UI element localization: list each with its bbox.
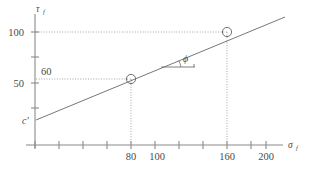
cohesion-intercept-label: c' [22, 115, 29, 126]
y-axis-title: τ f [36, 4, 46, 15]
guide-lines-group [36, 32, 227, 144]
x-axis-title-symbol: σ [288, 140, 293, 150]
y-tick-label-100: 100 [8, 27, 24, 38]
friction-angle-label: ϕ [183, 53, 188, 64]
y-value-label-60: 60 [41, 66, 52, 77]
y-tick-label-50: 50 [14, 78, 25, 89]
x-axis-title: σ f [288, 140, 299, 151]
mohr-coulomb-failure-envelope-figure: 100 50 60 80 100 160 200 τ f σ f c' ϕ [0, 0, 312, 173]
data-point-markers [126, 27, 231, 83]
x-tick-label-200: 200 [258, 151, 274, 162]
x-tick-label-100: 100 [149, 151, 165, 162]
x-axis-title-subscript: f [296, 144, 299, 151]
y-axis-title-subscript: f [43, 8, 46, 15]
y-axis-title-symbol: τ [36, 4, 40, 14]
x-tick-label-80: 80 [126, 151, 137, 162]
angle-arc [179, 61, 181, 68]
x-tick-label-160: 160 [219, 151, 235, 162]
plot-canvas: 100 50 60 80 100 160 200 τ f σ f c' ϕ [0, 0, 312, 173]
